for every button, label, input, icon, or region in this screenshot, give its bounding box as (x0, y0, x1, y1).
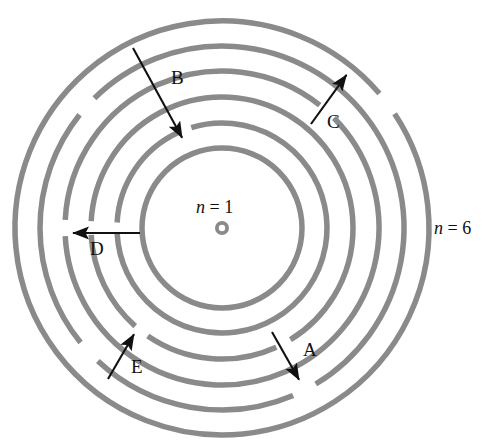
orbit-circles-group (15, 21, 429, 435)
shell-label-n6-value: = 6 (443, 218, 471, 238)
orbit-arc-5-1 (40, 115, 81, 343)
shell-label-n6-symbol: n (434, 218, 443, 238)
transition-label-C: C (327, 112, 340, 131)
shell-label-n1: n = 1 (196, 198, 233, 216)
orbit-shell-5 (40, 46, 404, 410)
orbit-shell-6 (15, 21, 429, 435)
orbit-arc-2-0 (117, 133, 177, 223)
nucleus-ring (217, 223, 227, 233)
orbit-shell-1 (142, 148, 302, 308)
orbit-arc-3-2 (91, 97, 353, 340)
orbit-arc-3-0 (148, 336, 277, 359)
nucleus-group (217, 223, 227, 233)
orbit-diagram-svg (0, 0, 490, 444)
transition-label-E: E (131, 357, 143, 376)
transition-label-D: D (90, 239, 104, 258)
transition-label-B: B (171, 68, 184, 87)
orbit-shell-3 (91, 97, 353, 359)
shell-label-n6: n = 6 (434, 219, 471, 237)
orbit-shell-2 (117, 123, 327, 333)
orbit-circle-1 (142, 148, 302, 308)
transition-label-A: A (303, 340, 317, 359)
shell-label-n1-value: = 1 (205, 197, 233, 217)
orbit-arc-6-0 (15, 21, 429, 435)
bohr-model-figure: n = 1 n = 6 ABCDE (0, 0, 490, 444)
shell-label-n1-symbol: n (196, 197, 205, 217)
